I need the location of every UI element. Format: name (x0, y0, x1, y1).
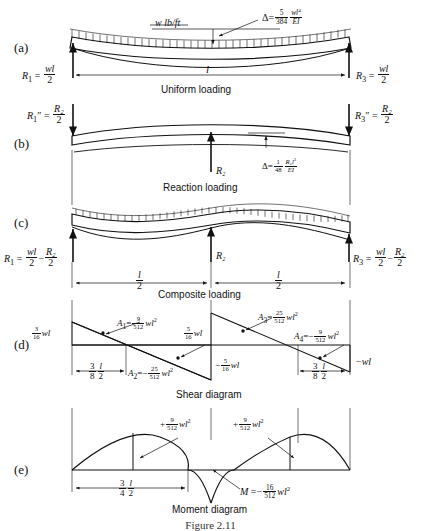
span-label-a: l (206, 64, 209, 75)
center-force-b: R₂ (216, 166, 226, 176)
shear-value-center-top: 516wl (183, 326, 202, 340)
shear-area-a4: A4=−9512wl2 (294, 329, 339, 343)
shear-value-center-bottom: −516wl (215, 358, 239, 372)
panel-letter-d: (d) (14, 337, 29, 353)
dimension-three-quarters-e: 34l2 (118, 479, 135, 498)
reaction-r1-b: R1″ = R₂2 (27, 104, 66, 125)
shear-area-a1: A1=9512wl2 (117, 316, 157, 330)
panel-e-graphics (72, 408, 350, 503)
panel-letter-e: (e) (14, 462, 28, 478)
shear-area-a2: A2=−25512wl2 (128, 366, 173, 380)
dimension-half-span-left-c: l2 (135, 270, 144, 291)
panel-letter-b: (b) (14, 136, 29, 152)
panel-c-title: Composite loading (158, 289, 241, 300)
shear-area-a3: A3=25512wl2 (258, 310, 298, 324)
reaction-r3-c: R3 = wl2−R₂2 (353, 247, 407, 268)
reaction-r3-b: R3″ = R₂2 (355, 104, 394, 125)
panel-letter-a: (a) (14, 40, 28, 56)
reaction-r1-a: R1 = wl2 (22, 64, 56, 85)
reaction-r3-a: R3 = wl2 (356, 64, 390, 85)
shear-value-left: 316wl (31, 326, 50, 340)
panel-letter-c: (c) (14, 215, 28, 231)
deflection-formula-b: Δ=148R₂l3EI (262, 158, 298, 174)
moment-positive-right: +9512wl2 (233, 417, 264, 431)
panel-a-graphics (70, 20, 351, 78)
moment-positive-left: +9512wl2 (160, 417, 191, 431)
dimension-three-eighths-right-d: 38l2 (311, 362, 328, 381)
panel-a-title: Uniform loading (161, 84, 231, 95)
panel-b-title: Reaction loading (163, 182, 238, 193)
moment-negative-peak: M =−16512wl2 (240, 484, 290, 500)
reaction-r1-c: R1 = wl2−R₂2 (4, 247, 58, 268)
panel-c-graphics (72, 204, 350, 288)
dimension-half-span-right-c: l2 (274, 270, 283, 291)
panel-d-title: Shear diagram (176, 389, 242, 400)
deflection-formula-a: Δ=5384wl4EI (262, 8, 303, 25)
center-force-c: R₂ (216, 251, 226, 261)
uniform-load-label: w lb/ft (155, 18, 180, 28)
figure-caption: Figure 2.11 (0, 519, 421, 531)
dimension-three-eighths-left-d: 38l2 (88, 362, 105, 381)
panel-e-title: Moment diagram (172, 504, 247, 515)
shear-value-right: −wl (356, 357, 371, 367)
